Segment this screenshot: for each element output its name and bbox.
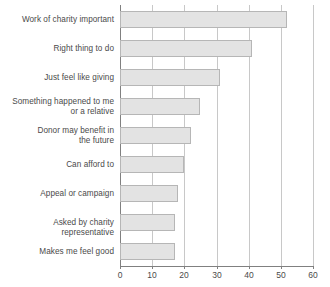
bar	[120, 156, 184, 173]
category-label-line: Asked by charity representative	[0, 218, 114, 238]
category-label-line: Can afford to	[0, 160, 114, 170]
x-tick-label-20: 20	[172, 270, 196, 281]
x-tick-mark-0	[120, 266, 121, 269]
category-label: Appeal or campaign	[0, 189, 114, 199]
bar	[120, 98, 200, 115]
bar	[120, 243, 175, 260]
category-label-line: Work of charity important	[0, 15, 114, 25]
bar	[120, 69, 220, 86]
category-label: Asked by charity representative	[0, 218, 114, 238]
x-tick-label-60: 60	[301, 270, 325, 281]
x-tick-mark-30	[217, 266, 218, 269]
x-tick-label-30: 30	[205, 270, 229, 281]
category-label-line: Something happened to me	[0, 97, 114, 107]
category-label-line: the future	[0, 136, 114, 146]
bar	[120, 214, 175, 231]
category-label-line: Just feel like giving	[0, 73, 114, 83]
category-label: Can afford to	[0, 160, 114, 170]
category-label-line: Right thing to do	[0, 44, 114, 54]
category-label: Something happened to meor a relative	[0, 97, 114, 117]
x-tick-mark-40	[249, 266, 250, 269]
gridline-60	[313, 5, 314, 266]
category-label: Just feel like giving	[0, 73, 114, 83]
category-label-line: Donor may benefit in	[0, 126, 114, 136]
bar-chart: Work of charity importantRight thing to …	[0, 0, 330, 287]
x-tick-label-50: 50	[269, 270, 293, 281]
bar	[120, 40, 252, 57]
category-label: Makes me feel good	[0, 247, 114, 257]
x-tick-mark-60	[313, 266, 314, 269]
category-label-line: Makes me feel good	[0, 247, 114, 257]
category-label-line: Appeal or campaign	[0, 189, 114, 199]
x-tick-mark-10	[152, 266, 153, 269]
category-label: Work of charity important	[0, 15, 114, 25]
bar	[120, 185, 178, 202]
x-tick-mark-50	[281, 266, 282, 269]
bar	[120, 11, 287, 28]
bar	[120, 127, 191, 144]
x-tick-label-40: 40	[237, 270, 261, 281]
plot-area	[120, 5, 313, 266]
x-tick-label-0: 0	[108, 270, 132, 281]
x-tick-label-10: 10	[140, 270, 164, 281]
category-label: Right thing to do	[0, 44, 114, 54]
category-label-line: or a relative	[0, 107, 114, 117]
gridline-50	[281, 5, 282, 266]
category-label: Donor may benefit inthe future	[0, 126, 114, 146]
x-tick-mark-20	[184, 266, 185, 269]
